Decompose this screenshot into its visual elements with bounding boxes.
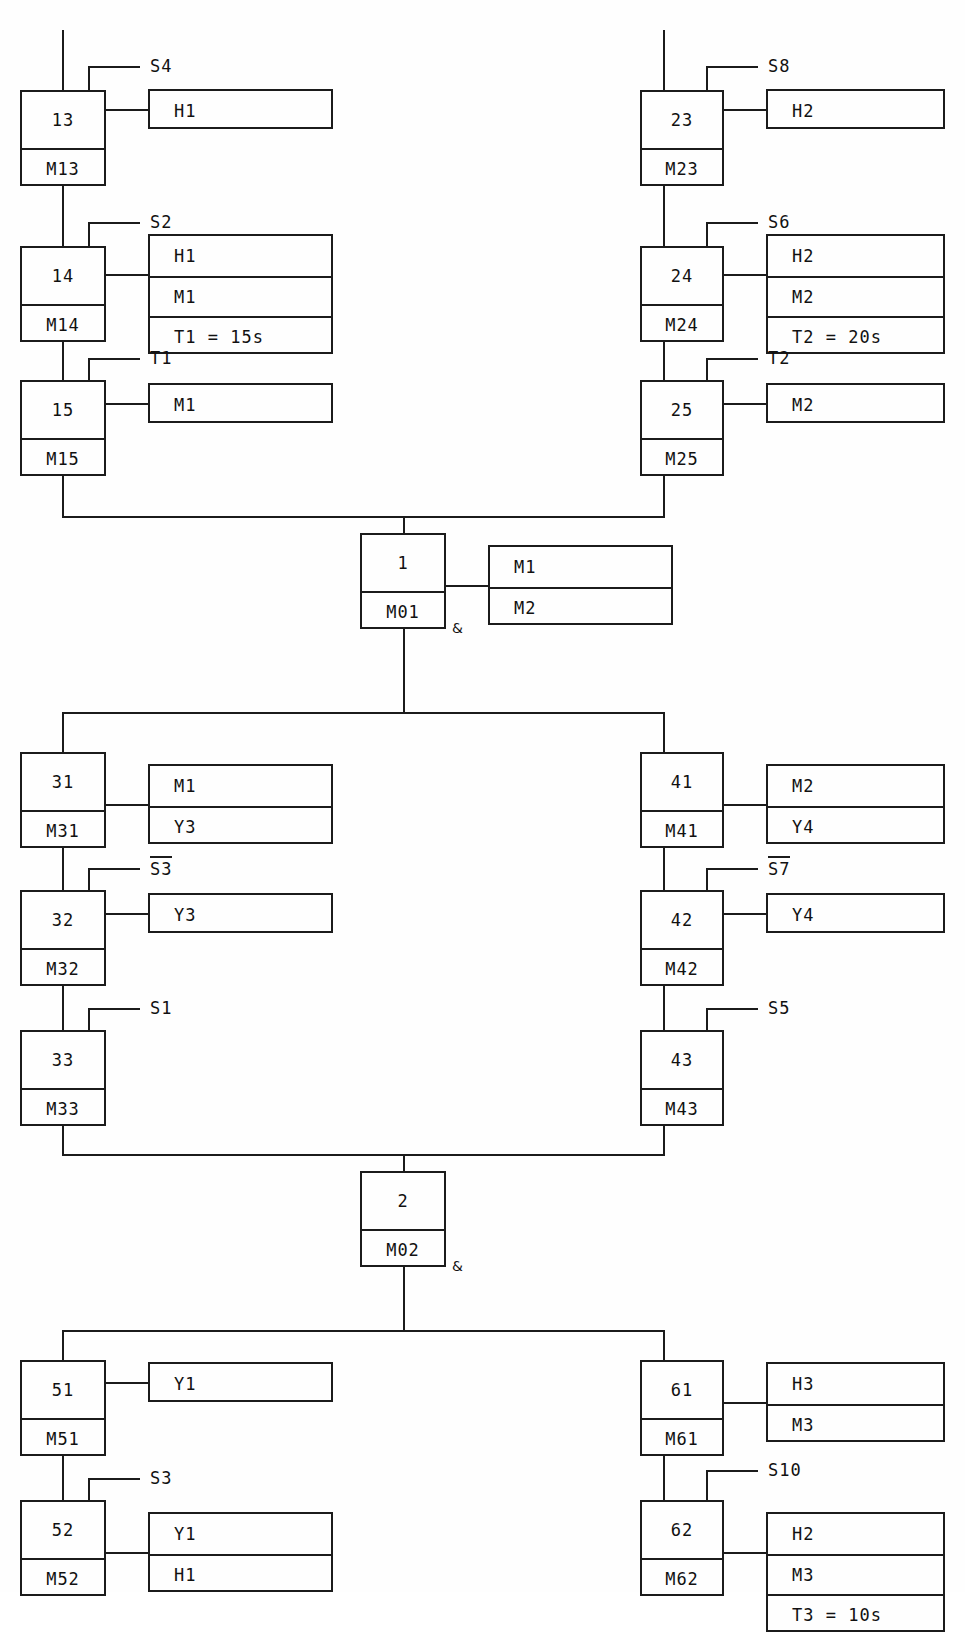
step-box-31[interactable]: 31 M31 [20,752,106,848]
step-box-2[interactable]: 2 M02 [360,1171,446,1267]
action-row: M2 [768,276,943,316]
step-box-61[interactable]: 61 M61 [640,1360,724,1456]
step-memory-42: M42 [642,948,722,988]
action-row: T3 = 10s [768,1594,943,1634]
action-box-23[interactable]: H2 [766,89,945,129]
action-row: T1 = 15s [150,316,331,356]
action-row: H2 [768,91,943,131]
incoming-line-left [62,30,64,90]
step-number-1: 1 [362,535,444,591]
step-box-25[interactable]: 25 M25 [640,380,724,476]
action-row: Y1 [150,1514,331,1554]
transition-stub-h-23 [706,66,758,68]
action-row: M1 [150,766,331,806]
transition-label-33: S1 [150,998,172,1018]
step-number-23: 23 [642,92,722,148]
step-memory-23: M23 [642,148,722,188]
step-memory-31: M31 [22,810,104,850]
action-link-1 [446,585,488,587]
step-number-41: 41 [642,754,722,810]
step-link-32-33 [62,986,64,1030]
action-box-31[interactable]: M1 Y3 [148,764,333,844]
action-row: H1 [150,91,331,131]
step-box-23[interactable]: 23 M23 [640,90,724,186]
step-box-33[interactable]: 33 M33 [20,1030,106,1126]
transition-stub-v-62 [706,1470,708,1500]
transition-stub-v-43 [706,1008,708,1030]
step-memory-41: M41 [642,810,722,850]
action-box-15[interactable]: M1 [148,383,333,423]
action-row: M1 [150,385,331,425]
step-memory-13: M13 [22,148,104,188]
transition-stub-h-33 [88,1008,140,1010]
action-row: M1 [490,547,671,587]
transition-stub-v-24 [706,222,708,246]
step-box-1[interactable]: 1 M01 [360,533,446,629]
action-box-24[interactable]: H2 M2 T2 = 20s [766,234,945,354]
transition-label-24: S6 [768,212,790,232]
action-row: Y1 [150,1364,331,1404]
step-link-23-24 [663,186,665,246]
step-number-13: 13 [22,92,104,148]
action-box-42[interactable]: Y4 [766,893,945,933]
diverge1-rail [62,712,665,714]
step-box-32[interactable]: 32 M32 [20,890,106,986]
and-convergence-marker-2: & [452,1258,463,1274]
step-box-14[interactable]: 14 M14 [20,246,106,342]
action-row: M2 [768,385,943,425]
step-box-51[interactable]: 51 M51 [20,1360,106,1456]
action-box-51[interactable]: Y1 [148,1362,333,1402]
action-box-52[interactable]: Y1 H1 [148,1512,333,1592]
transition-stub-v-15 [88,358,90,380]
step-box-43[interactable]: 43 M43 [640,1030,724,1126]
transition-stub-v-42 [706,868,708,890]
action-box-14[interactable]: H1 M1 T1 = 15s [148,234,333,354]
step-number-14: 14 [22,248,104,304]
step-box-42[interactable]: 42 M42 [640,890,724,986]
step-box-41[interactable]: 41 M41 [640,752,724,848]
transition-stub-v-52 [88,1478,90,1500]
action-box-32[interactable]: Y3 [148,893,333,933]
step-box-24[interactable]: 24 M24 [640,246,724,342]
transition-stub-h-24 [706,222,758,224]
converge1-drop-right [663,476,665,516]
step-memory-61: M61 [642,1418,722,1458]
step-number-61: 61 [642,1362,722,1418]
transition-label-42: S7 [768,856,790,879]
step-number-42: 42 [642,892,722,948]
transition-label-13: S4 [150,56,172,76]
step-memory-15: M15 [22,438,104,478]
step-link-31-32 [62,848,64,890]
transition-label-43: S5 [768,998,790,1018]
converge2-drop-left [62,1126,64,1154]
step-link-42-43 [663,986,665,1030]
action-link-62 [724,1552,766,1554]
transition-stub-v-23 [706,66,708,90]
action-box-61[interactable]: H3 M3 [766,1362,945,1442]
action-box-13[interactable]: H1 [148,89,333,129]
action-link-25 [724,403,766,405]
action-box-41[interactable]: M2 Y4 [766,764,945,844]
step-memory-14: M14 [22,304,104,344]
step-box-52[interactable]: 52 M52 [20,1500,106,1596]
action-link-14 [106,274,148,276]
transition-stub-h-25 [706,358,758,360]
step-box-15[interactable]: 15 M15 [20,380,106,476]
step-box-13[interactable]: 13 M13 [20,90,106,186]
step-memory-62: M62 [642,1558,722,1598]
action-box-1[interactable]: M1 M2 [488,545,673,625]
action-link-41 [724,804,766,806]
action-box-62[interactable]: H2 M3 T3 = 10s [766,1512,945,1632]
step-link-61-62 [663,1456,665,1500]
step-box-62[interactable]: 62 M62 [640,1500,724,1596]
converge2-drop-right [663,1126,665,1154]
transition-stub-v-25 [706,358,708,380]
step-memory-32: M32 [22,948,104,988]
transition-label-15: T1 [150,348,172,368]
step-number-33: 33 [22,1032,104,1088]
action-box-25[interactable]: M2 [766,383,945,423]
action-row: H2 [768,1514,943,1554]
step-number-43: 43 [642,1032,722,1088]
and-convergence-marker-1: & [452,620,463,636]
